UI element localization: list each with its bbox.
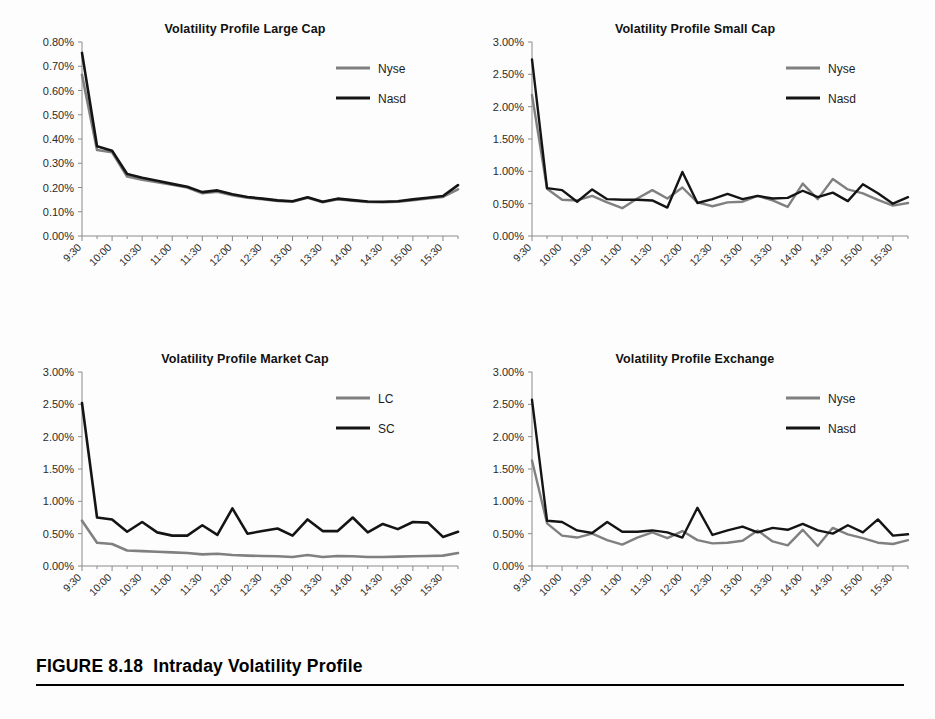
x-tick-label: 15:30: [867, 241, 894, 268]
x-tick-label: 13:30: [297, 571, 324, 598]
x-tick-label: 9:30: [510, 241, 533, 264]
y-tick-label: 3.00%: [493, 36, 524, 48]
x-tick-label: 11:30: [627, 241, 654, 268]
x-tick-label: 9:30: [60, 571, 83, 594]
y-tick-label: 0.50%: [493, 198, 524, 210]
x-tick-label: 10:00: [536, 241, 563, 268]
chart-panel-small-cap: Volatility Profile Small Cap 0.00%0.50%1…: [470, 14, 920, 344]
y-tick-label: 1.50%: [493, 463, 524, 475]
legend-label-nasd: Nasd: [378, 92, 406, 106]
x-tick-label: 13:30: [747, 571, 774, 598]
y-tick-label: 2.00%: [493, 431, 524, 443]
x-tick-label: 11:30: [627, 571, 654, 598]
y-tick-label: 2.00%: [493, 101, 524, 113]
x-tick-label: 12:30: [237, 571, 264, 598]
x-tick-label: 13:00: [267, 241, 294, 268]
x-tick-label: 14:00: [777, 571, 804, 598]
y-tick-label: 0.60%: [43, 85, 74, 97]
legend-label-nyse: Nyse: [378, 62, 406, 76]
y-tick-label: 0.50%: [493, 528, 524, 540]
x-tick-label: 12:00: [657, 571, 684, 598]
x-tick-label: 12:30: [687, 241, 714, 268]
series-line-nasd: [532, 400, 908, 538]
y-tick-label: 0.70%: [43, 60, 74, 72]
figure-caption-text: FIGURE 8.18 Intraday Volatility Profile: [36, 656, 904, 677]
legend-label-nyse: Nyse: [828, 392, 856, 406]
x-tick-label: 14:30: [807, 571, 834, 598]
y-tick-label: 3.00%: [43, 366, 74, 378]
chart-panel-large-cap: Volatility Profile Large Cap 0.00%0.10%0…: [20, 14, 470, 344]
x-tick-label: 9:30: [60, 241, 83, 264]
chart-canvas-exchange: 0.00%0.50%1.00%1.50%2.00%2.50%3.00%9:301…: [470, 362, 920, 666]
chart-svg-exchange: 0.00%0.50%1.00%1.50%2.00%2.50%3.00%9:301…: [470, 362, 920, 662]
y-tick-label: 2.00%: [43, 431, 74, 443]
x-tick-label: 10:30: [117, 571, 144, 598]
y-tick-label: 1.00%: [43, 495, 74, 507]
series-line-nasd: [532, 59, 908, 207]
y-tick-label: 0.10%: [43, 206, 74, 218]
x-tick-label: 11:30: [177, 241, 204, 268]
chart-panel-market-cap: Volatility Profile Market Cap 0.00%0.50%…: [20, 344, 470, 644]
y-tick-label: 0.50%: [43, 109, 74, 121]
y-tick-label: 0.30%: [43, 157, 74, 169]
y-tick-label: 1.00%: [493, 495, 524, 507]
x-tick-label: 13:00: [267, 571, 294, 598]
x-tick-label: 9:30: [510, 571, 533, 594]
legend-label-lc: LC: [378, 392, 394, 406]
legend-label-sc: SC: [378, 422, 395, 436]
x-tick-label: 15:00: [387, 241, 414, 268]
chart-canvas-market-cap: 0.00%0.50%1.00%1.50%2.00%2.50%3.00%9:301…: [20, 362, 470, 666]
x-tick-label: 10:00: [536, 571, 563, 598]
x-tick-label: 12:30: [687, 571, 714, 598]
x-tick-label: 15:00: [837, 241, 864, 268]
x-tick-label: 12:00: [207, 571, 234, 598]
x-tick-label: 13:30: [747, 241, 774, 268]
chart-svg-large-cap: 0.00%0.10%0.20%0.30%0.40%0.50%0.60%0.70%…: [20, 32, 470, 332]
x-tick-label: 10:00: [86, 241, 113, 268]
x-tick-label: 11:30: [177, 571, 204, 598]
x-tick-label: 12:30: [237, 241, 264, 268]
y-tick-label: 0.80%: [43, 36, 74, 48]
legend-label-nyse: Nyse: [828, 62, 856, 76]
x-tick-label: 12:00: [207, 241, 234, 268]
x-tick-label: 14:00: [327, 241, 354, 268]
chart-panel-exchange: Volatility Profile Exchange 0.00%0.50%1.…: [470, 344, 920, 644]
x-tick-label: 13:00: [717, 571, 744, 598]
y-tick-label: 0.00%: [493, 560, 524, 572]
x-tick-label: 14:30: [357, 571, 384, 598]
x-tick-label: 15:30: [417, 241, 444, 268]
x-tick-label: 11:00: [147, 241, 174, 268]
x-tick-label: 13:30: [297, 241, 324, 268]
x-tick-label: 10:30: [117, 241, 144, 268]
x-tick-label: 15:30: [417, 571, 444, 598]
y-tick-label: 3.00%: [493, 366, 524, 378]
chart-canvas-large-cap: 0.00%0.10%0.20%0.30%0.40%0.50%0.60%0.70%…: [20, 32, 470, 336]
x-tick-label: 14:00: [327, 571, 354, 598]
chart-svg-market-cap: 0.00%0.50%1.00%1.50%2.00%2.50%3.00%9:301…: [20, 362, 470, 662]
y-tick-label: 1.00%: [493, 165, 524, 177]
y-tick-label: 1.50%: [43, 463, 74, 475]
x-tick-label: 13:00: [717, 241, 744, 268]
figure-page: Volatility Profile Large Cap 0.00%0.10%0…: [0, 0, 935, 719]
x-tick-label: 10:30: [567, 571, 594, 598]
chart-canvas-small-cap: 0.00%0.50%1.00%1.50%2.00%2.50%3.00%9:301…: [470, 32, 920, 336]
x-tick-label: 15:30: [867, 571, 894, 598]
y-tick-label: 0.50%: [43, 528, 74, 540]
x-tick-label: 14:00: [777, 241, 804, 268]
caption-divider: [36, 684, 904, 686]
x-tick-label: 11:00: [147, 571, 174, 598]
chart-grid: Volatility Profile Large Cap 0.00%0.10%0…: [20, 14, 920, 644]
y-tick-label: 0.00%: [493, 230, 524, 242]
y-tick-label: 0.00%: [43, 230, 74, 242]
figure-caption: FIGURE 8.18 Intraday Volatility Profile: [36, 656, 904, 686]
x-tick-label: 14:30: [807, 241, 834, 268]
y-tick-label: 0.20%: [43, 182, 74, 194]
y-tick-label: 1.50%: [493, 133, 524, 145]
y-tick-label: 2.50%: [493, 398, 524, 410]
series-line-sc: [82, 403, 458, 537]
y-tick-label: 0.00%: [43, 560, 74, 572]
x-tick-label: 14:30: [357, 241, 384, 268]
legend-label-nasd: Nasd: [828, 92, 856, 106]
x-tick-label: 10:30: [567, 241, 594, 268]
x-tick-label: 15:00: [387, 571, 414, 598]
